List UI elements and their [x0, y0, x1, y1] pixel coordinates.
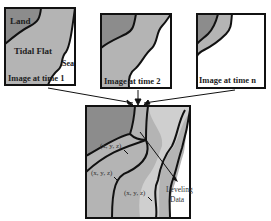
leveling-data-label-line1: Leveling: [166, 185, 193, 194]
sea-label: Sea: [62, 59, 74, 68]
tidal-flat-label: Tidal Flat: [14, 46, 52, 56]
merge-arrows: [48, 88, 235, 105]
land-label: Land: [10, 16, 31, 26]
panel-time-n: Image at time n: [197, 14, 265, 88]
panel-n-caption: Image at time n: [199, 75, 256, 85]
tidal-flat-diagram: Land Tidal Flat Sea Image at time 1 Imag…: [0, 0, 271, 221]
panel-2-caption: Image at time 2: [104, 76, 160, 86]
panel-1-caption: Image at time 1: [8, 73, 64, 83]
leveling-data-label-line2: Data: [170, 195, 185, 204]
point-label-1: (x, y, z): [100, 142, 122, 150]
panel-time-1: Land Tidal Flat Sea Image at time 1: [5, 8, 75, 85]
point-label-3: (x, y, z): [124, 189, 146, 197]
result-panel: (x, y, z) (x, y, z) (x, y, z) Leveling D…: [86, 106, 193, 218]
panel-time-2: Image at time 2: [101, 14, 171, 88]
point-label-2: (x, y, z): [91, 169, 113, 177]
